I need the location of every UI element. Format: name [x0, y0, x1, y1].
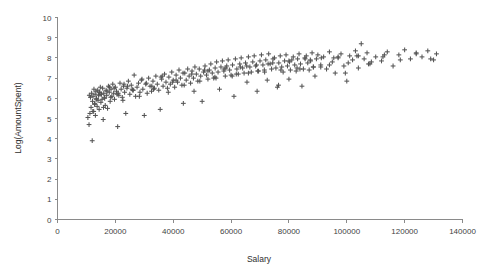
data-point — [197, 67, 202, 72]
data-point — [391, 64, 396, 69]
data-point — [295, 57, 300, 62]
data-point — [101, 117, 106, 122]
data-point — [233, 57, 238, 62]
data-point — [119, 87, 124, 92]
data-point — [343, 71, 348, 76]
y-tick-label: 0 — [47, 216, 52, 225]
data-point — [269, 67, 274, 72]
data-point — [245, 80, 250, 85]
data-point — [282, 59, 287, 64]
data-point — [139, 78, 144, 83]
data-point — [336, 54, 341, 59]
data-point — [344, 79, 349, 84]
data-point — [300, 84, 305, 89]
data-point — [362, 57, 367, 62]
data-point — [177, 68, 182, 73]
data-point — [247, 65, 252, 70]
data-point — [123, 111, 128, 116]
data-point — [258, 59, 263, 64]
y-axis: 012345678910 — [43, 14, 58, 225]
data-point — [311, 65, 316, 70]
y-axis-title: Log(AmountSpent) — [13, 82, 23, 154]
data-point — [263, 58, 268, 63]
data-point — [324, 67, 329, 72]
data-point — [255, 89, 260, 94]
data-point — [98, 85, 103, 90]
x-tick-label: 80000 — [278, 227, 301, 236]
data-point — [122, 90, 127, 95]
data-point — [287, 59, 292, 64]
data-point — [265, 78, 270, 83]
data-point — [140, 87, 145, 92]
data-point — [127, 92, 132, 97]
data-point — [434, 51, 439, 56]
data-point — [254, 63, 259, 68]
data-point — [414, 51, 419, 56]
data-point — [120, 98, 125, 103]
data-point — [174, 73, 179, 78]
data-point — [353, 48, 358, 53]
data-point — [214, 60, 219, 65]
data-point — [137, 94, 142, 99]
data-point — [142, 113, 147, 118]
data-point — [132, 73, 137, 78]
data-point — [385, 49, 390, 54]
data-point — [246, 54, 251, 59]
data-point — [250, 60, 255, 65]
x-tick-label: 40000 — [162, 227, 185, 236]
data-point — [284, 52, 289, 57]
data-point — [151, 79, 156, 84]
data-point — [188, 81, 193, 86]
data-point — [198, 74, 203, 79]
data-point — [181, 101, 186, 106]
data-point — [178, 76, 183, 81]
data-point — [341, 64, 346, 69]
data-point — [321, 54, 326, 59]
data-point — [295, 66, 300, 71]
data-point — [237, 62, 242, 67]
data-point — [356, 66, 361, 71]
x-tick-label: 0 — [55, 227, 60, 236]
data-points — [85, 41, 438, 143]
data-point — [276, 61, 281, 66]
x-tick-label: 20000 — [104, 227, 127, 236]
data-point — [217, 87, 222, 92]
data-point — [408, 57, 413, 62]
data-point — [279, 65, 284, 70]
data-point — [298, 62, 303, 67]
x-tick-label: 140000 — [449, 227, 476, 236]
x-tick-label: 60000 — [220, 227, 243, 236]
data-point — [153, 74, 158, 79]
data-point — [126, 79, 131, 84]
data-point — [310, 50, 315, 55]
data-point — [220, 59, 225, 64]
data-point — [402, 47, 407, 52]
data-point — [431, 58, 436, 63]
data-point — [333, 71, 338, 76]
data-point — [365, 50, 370, 55]
data-point — [278, 53, 283, 58]
data-point — [319, 56, 324, 61]
data-point — [308, 58, 313, 63]
data-point — [425, 48, 430, 53]
data-point — [208, 62, 213, 67]
data-point — [145, 91, 150, 96]
data-point — [420, 54, 425, 59]
x-tick-label: 100000 — [333, 227, 360, 236]
data-point — [146, 76, 151, 81]
data-point — [266, 51, 271, 56]
data-point — [297, 51, 302, 56]
data-point — [246, 71, 251, 76]
data-point — [339, 51, 344, 56]
x-tick-label: 120000 — [391, 227, 418, 236]
data-point — [396, 52, 401, 57]
data-point — [140, 77, 145, 82]
data-point — [144, 81, 149, 86]
data-point — [172, 85, 177, 90]
data-point — [428, 57, 433, 62]
data-point — [287, 77, 292, 82]
data-point — [239, 56, 244, 61]
y-tick-label: 10 — [43, 14, 52, 23]
data-point — [105, 106, 110, 111]
data-point — [327, 63, 332, 68]
